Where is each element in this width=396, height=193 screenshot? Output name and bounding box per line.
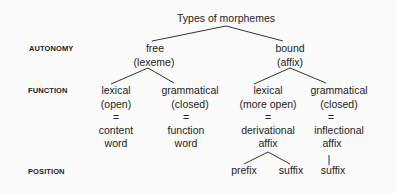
node-lexical-open: lexical xyxy=(101,84,130,96)
morpheme-tree-diagram: Types of morphemes AUTONOMY FUNCTION POS… xyxy=(0,0,396,193)
edge-root-free xyxy=(152,26,226,41)
node-content-word: content xyxy=(99,124,133,136)
node-function-word: function xyxy=(168,124,205,136)
node-bound: bound xyxy=(275,42,304,54)
edge-free-grammatical xyxy=(148,68,174,83)
row-label-autonomy: AUTONOMY xyxy=(29,44,73,53)
node-lexical-open-gloss: (open) xyxy=(101,98,131,110)
row-label-function: FUNCTION xyxy=(28,86,68,95)
node-derivational-affix: derivational xyxy=(241,124,295,136)
edge-free-lexical xyxy=(111,68,148,84)
node-function-word-2: word xyxy=(175,137,198,149)
node-lexical-more-open: lexical xyxy=(253,84,282,96)
edge-derivational-prefix xyxy=(244,152,268,164)
edge-root-bound xyxy=(226,26,283,41)
equals-sign: = xyxy=(265,111,271,123)
node-grammatical-closed: grammatical xyxy=(161,84,218,96)
edge-bound-lexical xyxy=(254,68,290,84)
node-suffix-derivational: suffix xyxy=(279,164,303,176)
node-free: free xyxy=(146,42,164,54)
node-inflectional-affix: inflectional xyxy=(314,124,364,136)
edge-bound-grammatical xyxy=(290,68,326,83)
row-label-position: POSITION xyxy=(28,167,65,176)
node-free-gloss: (lexeme) xyxy=(134,56,175,68)
equals-sign: = xyxy=(113,111,119,123)
node-bound-gloss: (affix) xyxy=(277,56,303,68)
edge-derivational-suffix xyxy=(268,152,290,164)
equals-sign: = xyxy=(328,111,334,123)
node-grammatical-closed-gloss: (closed) xyxy=(171,98,208,110)
node-suffix-inflectional: suffix xyxy=(321,164,345,176)
node-content-word-2: word xyxy=(105,137,128,149)
equals-sign: = xyxy=(183,111,189,123)
diagram-title: Types of morphemes xyxy=(177,12,275,24)
node-inflectional-affix-2: affix xyxy=(322,137,341,149)
node-grammatical-closed-affix: grammatical xyxy=(310,84,367,96)
node-derivational-affix-2: affix xyxy=(258,137,277,149)
node-grammatical-closed-affix-gloss: (closed) xyxy=(320,98,357,110)
node-lexical-more-open-gloss: (more open) xyxy=(239,98,296,110)
node-prefix: prefix xyxy=(231,164,257,176)
